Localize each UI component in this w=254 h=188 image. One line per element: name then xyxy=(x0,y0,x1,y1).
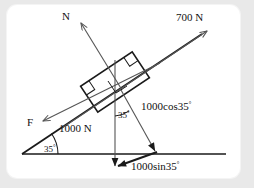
diagram-canvas: N 700 N F 1000 N 35° 35° 1000cos35° 1000… xyxy=(0,0,254,188)
base-angle-degree: ° xyxy=(53,143,56,150)
vertical-angle-degree: ° xyxy=(127,109,130,116)
normal-force-label: N xyxy=(62,10,70,22)
weight-perpendicular-component-label: 1000cos35° xyxy=(141,100,192,112)
weight-perp-value: 1000cos35 xyxy=(141,100,189,112)
weight-perp-degree: ° xyxy=(189,100,192,107)
vertical-angle-label: 35° xyxy=(118,109,130,121)
weight-parallel-component-label: 1000sin35° xyxy=(131,160,180,172)
normal-force-vector xyxy=(81,23,122,90)
physics-diagram: N 700 N F 1000 N 35° 35° 1000cos35° 1000… xyxy=(0,0,254,188)
applied-force-label: 700 N xyxy=(176,11,203,23)
friction-force-label: F xyxy=(27,116,33,128)
base-angle-label: 35° xyxy=(44,143,56,155)
weight-label: 1000 N xyxy=(59,122,92,134)
weight-par-degree: ° xyxy=(177,160,180,167)
weight-par-value: 1000sin35 xyxy=(131,160,177,172)
